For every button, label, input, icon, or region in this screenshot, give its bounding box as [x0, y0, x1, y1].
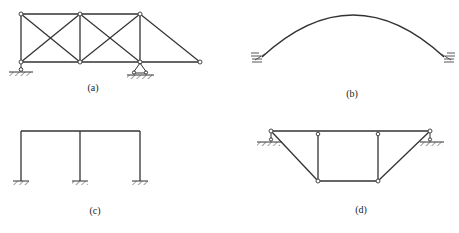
panel-label-a: (a) [87, 82, 98, 93]
fixed-support-icon [132, 181, 148, 185]
truss-d [271, 131, 430, 181]
panel-label-b: (b) [346, 88, 358, 99]
panel-label-d: (d) [355, 204, 367, 215]
truss-a [21, 14, 200, 62]
fixed-support-icon [72, 181, 88, 185]
fixed-support-icon [13, 181, 29, 185]
panel-label-c: (c) [89, 205, 100, 216]
fixed-support-icon [251, 52, 268, 62]
frame-c [21, 131, 140, 181]
arch-b [262, 15, 444, 57]
structural-diagrams [0, 0, 459, 233]
roller-support-icon [420, 133, 444, 146]
truss-d-nodes [269, 129, 432, 183]
pin-support-icon [127, 63, 154, 79]
fixed-support-icon [438, 52, 455, 62]
roller-support-icon [9, 64, 33, 76]
